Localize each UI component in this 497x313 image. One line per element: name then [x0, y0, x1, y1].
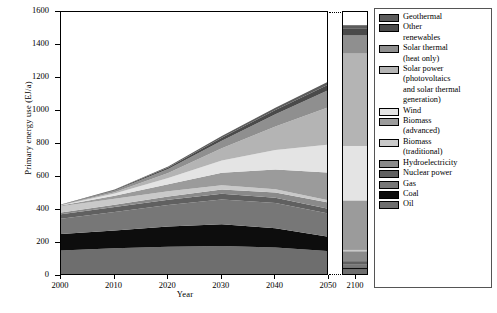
main-plot-area	[60, 11, 328, 275]
stacked-area-main	[61, 12, 328, 275]
area-band-2100	[343, 54, 367, 146]
area-band-2100	[343, 250, 367, 251]
legend-label-cont: (traditional)	[403, 147, 443, 157]
panel-2100	[342, 11, 368, 275]
x-tick-label: 2020	[147, 280, 187, 290]
area-band-2100	[343, 200, 367, 250]
stacked-area-2100	[343, 12, 367, 275]
legend-swatch	[379, 14, 399, 22]
x-tick	[221, 275, 222, 279]
legend-label: Wind	[403, 106, 421, 116]
legend-swatch	[379, 170, 399, 178]
x-tick-label: 2010	[94, 280, 134, 290]
y-tick-label: 600	[15, 170, 49, 180]
legend-label-cont: (advanced)	[403, 126, 440, 136]
area-band-2100	[343, 35, 367, 53]
legend-label: Oil	[403, 199, 414, 209]
legend-item[interactable]: Solar thermal(heat only)	[379, 43, 488, 64]
legend-swatch	[379, 118, 399, 126]
chart-figure: Primary energy use (EJ/a) Year 020040060…	[0, 0, 497, 313]
y-axis-title: Primary energy use (EJ/a)	[23, 38, 33, 218]
legend-item[interactable]: Biomass(traditional)	[379, 137, 488, 158]
legend-label: Other	[403, 22, 440, 32]
x-tick-2100	[355, 275, 356, 279]
legend-item[interactable]: Biomass(advanced)	[379, 116, 488, 137]
legend-label-cont: renewables	[403, 33, 440, 43]
legend-label-cont: (heat only)	[403, 54, 448, 64]
area-band-2100	[343, 146, 367, 200]
axis-break-bottom	[329, 274, 341, 275]
area-band-2100	[343, 269, 367, 275]
x-tick	[114, 275, 115, 279]
legend-swatch	[379, 108, 399, 116]
legend-swatch	[379, 66, 399, 74]
y-tick-label: 200	[15, 236, 49, 246]
legend-swatch	[379, 139, 399, 147]
y-tick-label: 1400	[15, 38, 49, 48]
legend-swatch	[379, 181, 399, 189]
legend-item[interactable]: Hydroelectricity	[379, 158, 488, 168]
legend-label: Geothermal	[403, 12, 442, 22]
legend-label: Hydroelectricity	[403, 158, 457, 168]
legend-label-cont: (photovoltaics	[403, 74, 461, 84]
y-tick-label: 1200	[15, 71, 49, 81]
legend-label-cont: generation)	[403, 95, 461, 105]
x-tick	[167, 275, 168, 279]
chart-legend: GeothermalOtherrenewablesSolar thermal(h…	[374, 8, 492, 288]
legend-label: Solar thermal	[403, 43, 448, 53]
legend-item[interactable]: Solar power(photovoltaicsand solar therm…	[379, 64, 488, 106]
area-band-2100	[343, 251, 367, 261]
y-tick-label: 1000	[15, 104, 49, 114]
legend-item[interactable]: Gas	[379, 179, 488, 189]
legend-label: Solar power	[403, 64, 461, 74]
x-tick-label: 2040	[254, 280, 294, 290]
legend-label-cont: and solar thermal	[403, 85, 461, 95]
legend-label: Nuclear power	[403, 168, 452, 178]
legend-swatch	[379, 45, 399, 53]
legend-item[interactable]: Coal	[379, 189, 488, 199]
y-tick-label: 1600	[15, 5, 49, 15]
x-tick	[274, 275, 275, 279]
x-tick	[328, 275, 329, 279]
legend-label: Coal	[403, 189, 419, 199]
legend-label: Gas	[403, 179, 416, 189]
x-axis-title: Year	[60, 289, 310, 299]
area-band-2100	[343, 267, 367, 269]
area-band-2100	[343, 29, 367, 36]
legend-item[interactable]: Nuclear power	[379, 168, 488, 178]
x-tick	[60, 275, 61, 279]
legend-item[interactable]: Wind	[379, 106, 488, 116]
legend-item[interactable]: Geothermal	[379, 12, 488, 22]
area-band-2100	[343, 264, 367, 267]
legend-swatch	[379, 160, 399, 168]
legend-swatch	[379, 191, 399, 199]
axis-break-top	[329, 12, 341, 13]
y-tick-label: 400	[15, 203, 49, 213]
legend-label: Biomass	[403, 137, 443, 147]
y-tick-label: 800	[15, 137, 49, 147]
legend-swatch	[379, 201, 399, 209]
area-band	[61, 246, 328, 275]
legend-swatch	[379, 24, 399, 32]
x-tick-label-2100: 2100	[335, 280, 375, 290]
x-tick-label: 2000	[40, 280, 80, 290]
area-band-2100	[343, 25, 367, 29]
x-tick-label: 2030	[201, 280, 241, 290]
y-tick-label: 0	[15, 269, 49, 279]
legend-item[interactable]: Otherrenewables	[379, 22, 488, 43]
legend-item[interactable]: Oil	[379, 199, 488, 209]
area-band-2100	[343, 261, 367, 264]
legend-label: Biomass	[403, 116, 440, 126]
